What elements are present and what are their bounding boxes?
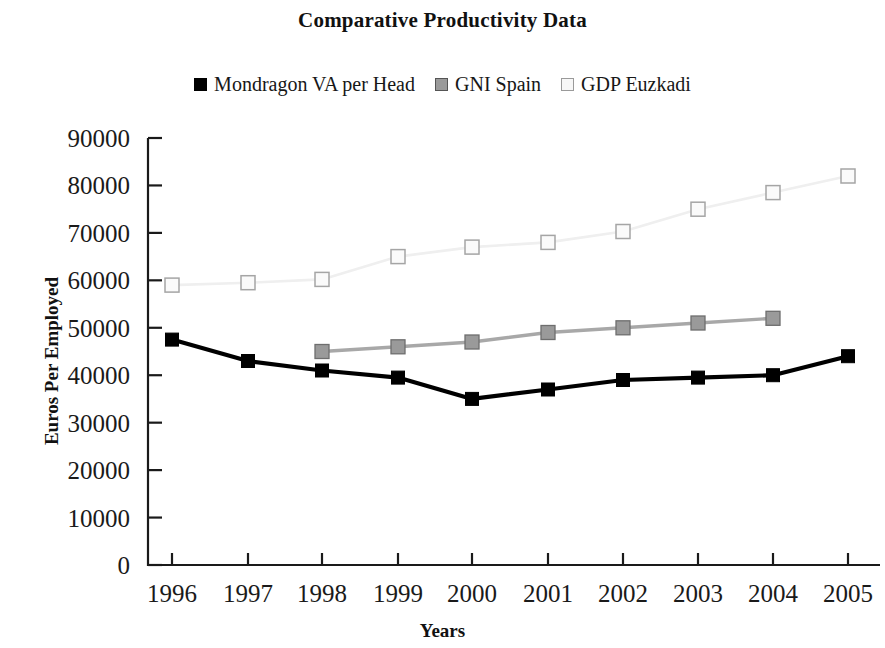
y-axis-tick-label: 10000 xyxy=(0,505,130,530)
data-point-marker xyxy=(767,369,780,382)
data-point-marker xyxy=(241,276,255,290)
x-axis-tick-label: 1996 xyxy=(147,581,197,606)
y-axis-tick-label: 50000 xyxy=(0,315,130,340)
data-point-marker xyxy=(691,316,705,330)
y-axis-tick-label: 60000 xyxy=(0,268,130,293)
y-axis-tick-label: 20000 xyxy=(0,458,130,483)
data-point-marker xyxy=(391,250,405,264)
x-axis-tick-label: 1998 xyxy=(297,581,347,606)
data-point-marker xyxy=(617,374,630,387)
data-point-marker xyxy=(465,335,479,349)
x-axis-tick-label: 2001 xyxy=(523,581,573,606)
data-point-marker xyxy=(541,235,555,249)
x-axis-title: Years xyxy=(0,620,885,642)
data-point-marker xyxy=(391,340,405,354)
data-point-marker xyxy=(541,326,555,340)
x-axis-tick-label: 2003 xyxy=(673,581,723,606)
data-point-marker xyxy=(692,371,705,384)
data-point-marker xyxy=(315,272,329,286)
data-point-marker xyxy=(166,333,179,346)
data-point-marker xyxy=(316,364,329,377)
y-axis-tick-label: 40000 xyxy=(0,363,130,388)
x-axis-tick-label: 2002 xyxy=(598,581,648,606)
data-point-marker xyxy=(766,311,780,325)
data-point-marker xyxy=(542,383,555,396)
data-point-marker xyxy=(315,345,329,359)
data-point-marker xyxy=(242,355,255,368)
data-point-marker xyxy=(616,225,630,239)
data-point-marker xyxy=(842,350,855,363)
x-axis-tick-label: 2004 xyxy=(748,581,798,606)
chart-svg xyxy=(0,0,885,648)
y-axis-tick-label: 80000 xyxy=(0,173,130,198)
y-axis-tick-label: 30000 xyxy=(0,410,130,435)
chart-page: Comparative Productivity Data Mondragon … xyxy=(0,0,885,648)
x-axis-tick-label: 1999 xyxy=(373,581,423,606)
x-axis-tick-label: 2000 xyxy=(447,581,497,606)
y-axis-tick-label: 90000 xyxy=(0,126,130,151)
plot-area: Euros Per Employed Years 010000200003000… xyxy=(0,0,885,648)
y-axis-tick-label: 70000 xyxy=(0,220,130,245)
data-point-marker xyxy=(466,392,479,405)
data-point-marker xyxy=(616,321,630,335)
x-axis-tick-label: 1997 xyxy=(223,581,273,606)
x-axis-tick-label: 2005 xyxy=(823,581,873,606)
data-point-marker xyxy=(165,278,179,292)
data-point-marker xyxy=(841,169,855,183)
y-axis-tick-label: 0 xyxy=(0,553,130,578)
data-point-marker xyxy=(465,240,479,254)
data-point-marker xyxy=(691,202,705,216)
data-point-marker xyxy=(392,371,405,384)
data-point-marker xyxy=(766,186,780,200)
